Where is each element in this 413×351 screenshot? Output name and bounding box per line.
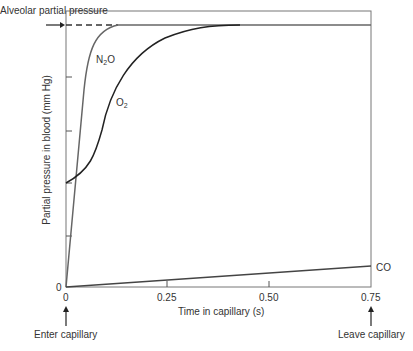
x-tick-label-0: 0 bbox=[63, 292, 69, 303]
alveolar-arrow-icon bbox=[46, 22, 65, 28]
x-tick-label-2: 0.50 bbox=[259, 292, 278, 303]
x-tick-label-1: 0.25 bbox=[157, 292, 176, 303]
chart-canvas bbox=[0, 0, 413, 351]
o2-label: O2 bbox=[116, 97, 128, 109]
co-line bbox=[66, 266, 371, 287]
y-ticks bbox=[66, 77, 72, 236]
x-ticks bbox=[167, 281, 269, 287]
plot-frame bbox=[66, 11, 371, 287]
enter-arrow-icon bbox=[63, 306, 69, 326]
co-label: CO bbox=[376, 262, 391, 273]
leave-capillary-label: Leave capillary bbox=[338, 329, 405, 340]
y-tick-label-0: 0 bbox=[56, 282, 62, 293]
enter-capillary-label: Enter capillary bbox=[34, 329, 97, 340]
n2o-label: N2O bbox=[96, 54, 115, 66]
x-tick-label-3: 0.75 bbox=[361, 292, 380, 303]
x-axis-label: Time in capillary (s) bbox=[178, 306, 264, 317]
leave-arrow-icon bbox=[368, 306, 374, 326]
y-axis-label: Partial pressure in blood (mm Hg) bbox=[41, 75, 52, 225]
alveolar-label: Alveolar partial pressure bbox=[0, 4, 44, 17]
